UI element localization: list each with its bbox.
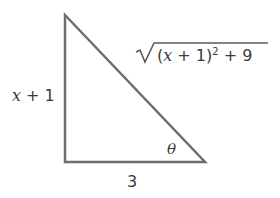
var-x: x (12, 86, 21, 105)
plus-one-close: + 1) (172, 46, 212, 65)
hypotenuse-label: (x + 1)2 + 9 (157, 46, 252, 65)
plus-one: + 1 (21, 86, 55, 105)
horizontal-leg-label: 3 (127, 172, 137, 191)
angle-label: θ (167, 140, 176, 158)
var-x: x (163, 46, 172, 65)
vertical-leg-label: x + 1 (12, 86, 55, 105)
plus-nine: + 9 (219, 46, 253, 65)
right-triangle (65, 15, 205, 162)
